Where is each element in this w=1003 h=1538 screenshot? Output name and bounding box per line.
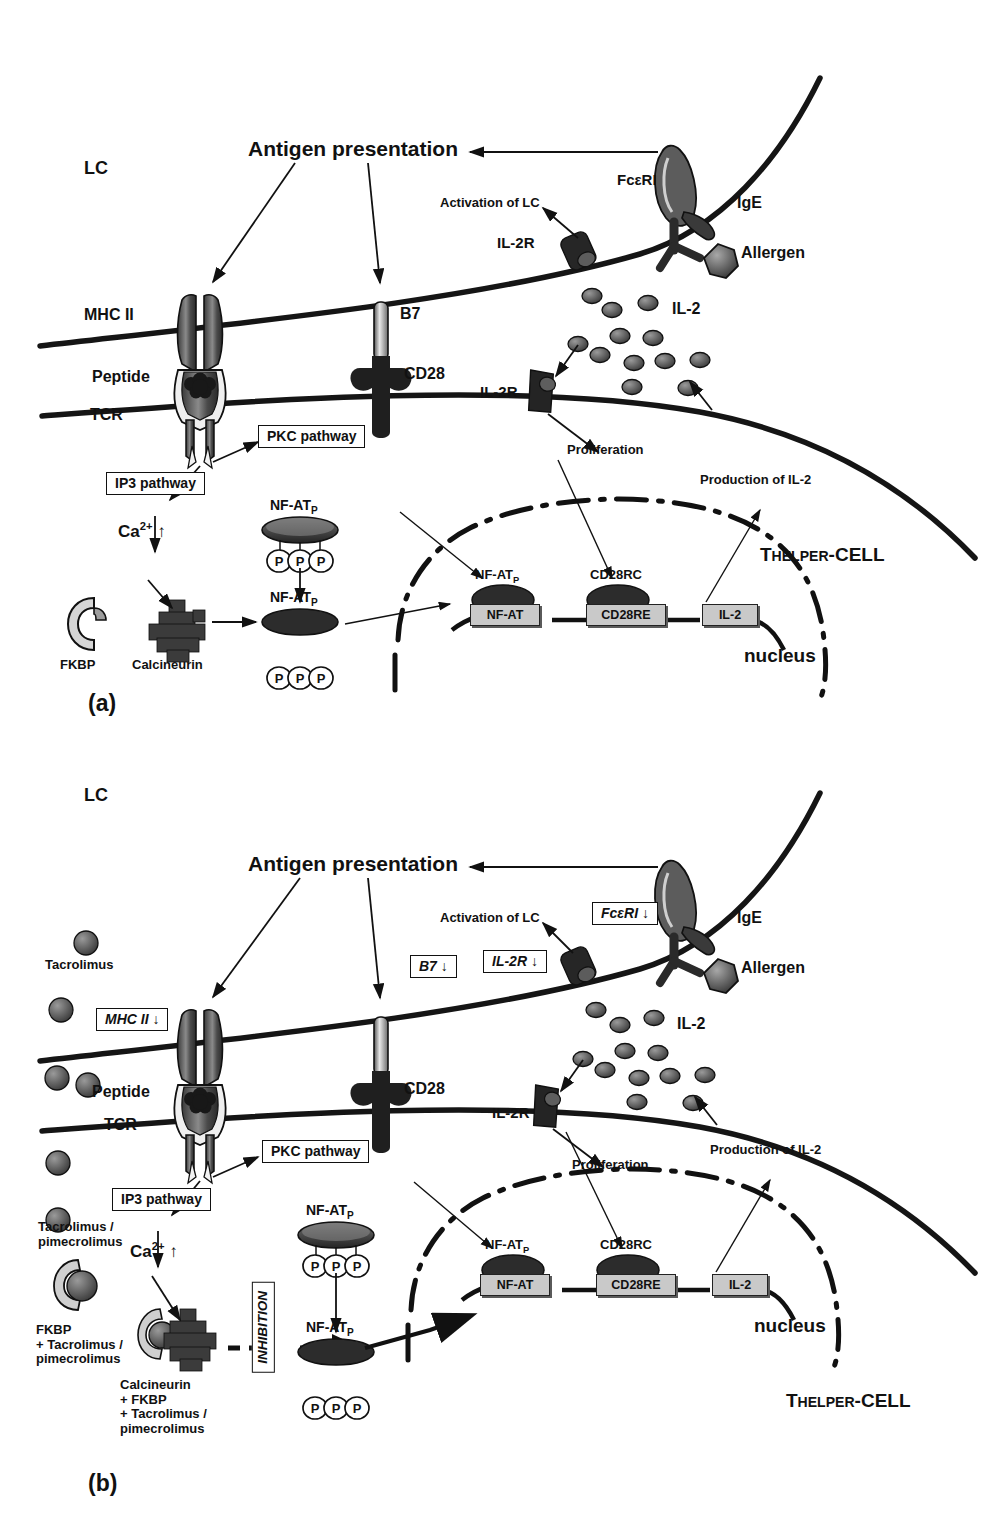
gene-il2-b: IL-2 (712, 1274, 768, 1296)
svg-text:P: P (317, 554, 326, 569)
svg-text:P: P (332, 1401, 341, 1416)
panel-a-graphics: PPP PPP (0, 0, 1003, 760)
cd28rc-label-a: CD28RC (590, 568, 642, 583)
pkc-pathway-box-a: PKC pathway (258, 425, 365, 448)
ige-label-a: IgE (737, 194, 762, 212)
svg-text:P: P (332, 1259, 341, 1274)
thelper-cell-label-a: THELPER-CELL (760, 544, 885, 565)
allergen-label-a: Allergen (741, 244, 805, 262)
il2r-top-label-a: IL-2R (497, 235, 535, 252)
tacrolimus-label-b: Tacrolimus (45, 958, 113, 973)
production-of-il2-label-a: Production of IL-2 (700, 473, 811, 488)
lc-label-a: LC (84, 158, 108, 178)
cd28-label-a: CD28 (404, 365, 445, 383)
tcr-label-a: TCR (90, 406, 123, 424)
nfatp-lower-label-b: NF-ATP (306, 1320, 354, 1338)
svg-text:P: P (317, 671, 326, 686)
nucleus-label-a: nucleus (744, 645, 816, 666)
ip3-pathway-box-a: IP3 pathway (106, 472, 205, 495)
il2r-bottom-label-b: IL-2R (492, 1105, 530, 1122)
b7-down-box-b: B7 ↓ (410, 955, 457, 978)
svg-text:P: P (275, 671, 284, 686)
svg-text:P: P (353, 1259, 362, 1274)
panel-label-a: (a) (88, 690, 116, 717)
tcr-label-b: TCR (104, 1116, 137, 1134)
svg-text:P: P (296, 554, 305, 569)
il2r-down-box-b: IL-2R ↓ (483, 950, 547, 973)
svg-text:P: P (275, 554, 284, 569)
calcineurin-label-a: Calcineurin (132, 658, 203, 673)
proliferation-label-b: Proliferation (572, 1158, 649, 1173)
peptide-label-b: Peptide (92, 1083, 150, 1101)
calcium-label-a: Ca2+ ↑ (118, 520, 166, 541)
panel-b: PPP PPP (0, 760, 1003, 1538)
panel-a: PPP PPP (0, 0, 1003, 760)
calcium-label-b: Ca2+ ↑ (130, 1240, 178, 1261)
production-of-il2-label-b: Production of IL-2 (710, 1143, 821, 1158)
gene-nf-at-b: NF-AT (480, 1274, 550, 1296)
nfatp-gene-label-a: NF-ATP (475, 568, 519, 585)
ip3-pathway-box-b: IP3 pathway (112, 1188, 211, 1211)
cd28rc-label-b: CD28RC (600, 1238, 652, 1253)
gene-il2-a: IL-2 (702, 604, 758, 626)
proliferation-label-a: Proliferation (567, 443, 644, 458)
nfatp-gene-label-b: NF-ATP (485, 1238, 529, 1255)
ige-label-b: IgE (737, 909, 762, 927)
nucleus-label-b: nucleus (754, 1315, 826, 1336)
svg-text:P: P (296, 671, 305, 686)
activation-of-lc-label-b: Activation of LC (440, 911, 540, 926)
fceri-down-box-b: FcεRI ↓ (592, 902, 658, 925)
b7-label-a: B7 (400, 305, 420, 323)
il2-pool-label-a: IL-2 (672, 300, 700, 318)
mhc2-label-a: MHC II (84, 306, 134, 324)
gene-nf-at-a: NF-AT (470, 604, 540, 626)
nfatp-lower-label-a: NF-ATP (270, 590, 318, 608)
fkbp-label-a: FKBP (60, 658, 95, 673)
nfatp-upper-label-b: NF-ATP (306, 1203, 354, 1221)
cd28-label-b: CD28 (404, 1080, 445, 1098)
calcineurin-complex-label-b: Calcineurin + FKBP + Tacrolimus / pimecr… (120, 1378, 207, 1436)
allergen-label-b: Allergen (741, 959, 805, 977)
tacrolimus-pimecrolimus-label-b: Tacrolimus / pimecrolimus (38, 1220, 123, 1249)
mhc2-down-box-b: MHC II ↓ (96, 1008, 168, 1031)
svg-text:P: P (353, 1401, 362, 1416)
fkbp-complex-label-b: FKBP + Tacrolimus / pimecrolimus (36, 1323, 123, 1367)
nfatp-upper-label-a: NF-ATP (270, 498, 318, 516)
inhibition-box-b: INHIBITION (252, 1282, 275, 1373)
il2r-bottom-label-a: IL-2R (480, 384, 518, 401)
antigen-presentation-label-a: Antigen presentation (248, 137, 458, 161)
pkc-pathway-box-b: PKC pathway (262, 1140, 369, 1163)
thelper-cell-label-b: THELPER-CELL (786, 1390, 911, 1411)
svg-text:P: P (311, 1401, 320, 1416)
svg-text:P: P (311, 1259, 320, 1274)
il2-pool-label-b: IL-2 (677, 1015, 705, 1033)
peptide-label-a: Peptide (92, 368, 150, 386)
gene-cd28re-a: CD28RE (586, 604, 666, 626)
figure-root: PPP PPP (0, 0, 1003, 1538)
fceri-label-a: FcεRI (617, 172, 657, 189)
panel-label-b: (b) (88, 1470, 117, 1497)
lc-label-b: LC (84, 785, 108, 805)
activation-of-lc-label-a: Activation of LC (440, 196, 540, 211)
gene-cd28re-b: CD28RE (596, 1274, 676, 1296)
antigen-presentation-label-b: Antigen presentation (248, 852, 458, 876)
